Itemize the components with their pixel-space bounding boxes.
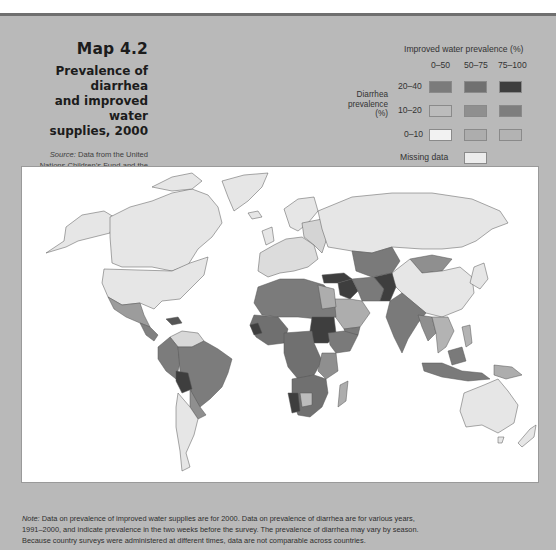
- region-indonesia: [422, 363, 490, 381]
- legend-axis-label: Diarrhea prevalence (%): [330, 90, 388, 119]
- axis-label-line-3: (%): [330, 109, 388, 119]
- legend-column-50-75: 50–75: [464, 60, 488, 70]
- region-iceland: [248, 211, 262, 219]
- legend-row-0-10: 0–10: [404, 129, 423, 139]
- region-east-africa: [318, 353, 338, 379]
- map-figure-page: Map 4.2 Prevalence of diarrhea and impro…: [0, 13, 556, 550]
- region-canada-arctic-islands: [152, 173, 202, 191]
- region-madagascar: [338, 381, 348, 407]
- source-label: Source:: [50, 150, 76, 159]
- region-borneo: [448, 347, 466, 365]
- region-arabian-peninsula: [334, 299, 370, 329]
- note-line-1: Data on prevalence of improved water sup…: [40, 514, 415, 523]
- legend-swatch-high-diarrhea-mid-water: [464, 81, 487, 93]
- legend-swatch-mid-diarrhea-high-water: [499, 105, 522, 117]
- note-line-3: Because country surveys were administere…: [22, 535, 542, 546]
- map-title-line-1: Prevalence of diarrhea: [20, 64, 148, 94]
- map-legend: Improved water prevalence (%) 0–50 50–75…: [330, 41, 556, 171]
- map-note: Note: Data on prevalence of improved wat…: [22, 513, 542, 546]
- legend-swatch-low-diarrhea-low-water: [429, 129, 452, 141]
- axis-label-line-2: prevalence: [330, 100, 388, 110]
- region-australia: [460, 379, 518, 433]
- region-greenland: [222, 173, 268, 211]
- legend-swatch-high-diarrhea-low-water: [429, 81, 452, 93]
- region-philippines: [462, 325, 472, 347]
- region-russia: [318, 193, 508, 253]
- map-title-line-3: supplies, 2000: [20, 124, 148, 139]
- legend-title: Improved water prevalence (%): [404, 44, 523, 54]
- region-papua-new-guinea: [494, 365, 522, 379]
- axis-label-line-1: Diarrhea: [330, 90, 388, 100]
- world-map-graphic: [22, 167, 539, 483]
- legend-column-0-50: 0–50: [431, 60, 450, 70]
- source-line-1: Data from the United: [76, 150, 148, 159]
- region-namibia: [288, 393, 300, 413]
- world-map: [21, 166, 539, 483]
- region-uk-ireland: [262, 227, 274, 245]
- region-caribbean: [166, 317, 182, 325]
- legend-swatch-mid-diarrhea-mid-water: [464, 105, 487, 117]
- legend-swatch-high-diarrhea-high-water: [499, 81, 522, 93]
- legend-swatch-low-diarrhea-mid-water: [464, 129, 487, 141]
- legend-row-10-20: 10–20: [398, 105, 422, 115]
- region-botswana: [300, 393, 312, 407]
- region-ethiopia-horn: [328, 331, 358, 353]
- region-new-zealand: [518, 425, 536, 447]
- map-number: Map 4.2: [20, 40, 148, 58]
- legend-column-75-100: 75–100: [498, 60, 527, 70]
- legend-row-20-40: 20–40: [398, 81, 422, 91]
- region-alaska: [46, 211, 114, 253]
- legend-swatch-low-diarrhea-high-water: [499, 129, 522, 141]
- legend-swatch-mid-diarrhea-low-water: [429, 105, 452, 117]
- region-southeast-asia: [432, 317, 454, 353]
- map-title-line-2: and improved water: [20, 94, 148, 124]
- title-block: Map 4.2 Prevalence of diarrhea and impro…: [20, 40, 148, 182]
- note-line-2: 1991–2000, and indicate prevalence in th…: [22, 524, 542, 535]
- region-tasmania: [498, 437, 504, 443]
- note-label: Note:: [22, 514, 40, 523]
- legend-missing-label: Missing data: [400, 152, 448, 162]
- legend-swatch-missing-data: [464, 152, 487, 164]
- map-title: Prevalence of diarrhea and improved wate…: [20, 64, 148, 139]
